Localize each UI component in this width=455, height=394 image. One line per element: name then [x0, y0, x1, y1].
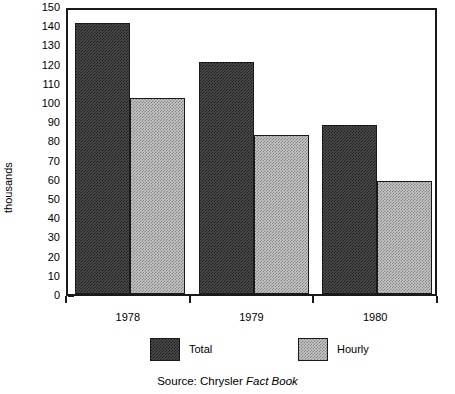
x-axis-tick-marks	[0, 296, 455, 305]
bar-chart-figure: thousands 150140130120110100908070605040…	[0, 0, 455, 394]
bar-hourly-1980	[377, 181, 432, 294]
chart-legend: TotalHourly	[0, 336, 455, 366]
x-axis-tick-label: 1979	[222, 311, 282, 323]
x-axis-tick-labels: 197819791980	[0, 311, 455, 325]
bar-total-1978	[75, 23, 130, 294]
y-axis-tick-label: 110	[26, 79, 60, 90]
source-italic-title: Fact Book	[246, 375, 298, 387]
bars-layer	[68, 10, 435, 294]
x-axis-tick-mark	[65, 296, 67, 303]
y-axis-tick-label: 40	[26, 213, 60, 224]
source-prefix: Source: Chrysler	[157, 375, 246, 387]
plot-area	[66, 8, 437, 296]
legend-label: Total	[189, 343, 212, 355]
legend-entry-hourly[interactable]: Hourly	[298, 336, 369, 362]
x-axis-tick-mark	[312, 296, 314, 303]
x-axis-tick-mark	[436, 296, 438, 303]
bar-total-1980	[322, 125, 377, 294]
y-axis-tick-label: 50	[26, 194, 60, 205]
bar-hourly-1979	[254, 135, 309, 294]
y-axis-tick-label: 90	[26, 117, 60, 128]
y-axis-tick-labels: 1501401301201101009080706050403020100	[22, 0, 60, 304]
x-axis-tick-label: 1980	[345, 311, 405, 323]
y-axis-tick-label: 150	[26, 2, 60, 13]
y-axis-tick-label: 80	[26, 136, 60, 147]
y-axis-tick-label: 20	[26, 252, 60, 263]
y-axis-tick-label: 30	[26, 232, 60, 243]
y-axis-tick-label: 10	[26, 271, 60, 282]
x-axis-tick-mark	[189, 296, 191, 303]
y-axis-title: thousands	[0, 128, 16, 248]
legend-label: Hourly	[337, 343, 369, 355]
y-axis-tick-label: 60	[26, 175, 60, 186]
x-axis-tick-label: 1978	[98, 311, 158, 323]
source-note: Source: Chrysler Fact Book	[0, 374, 455, 388]
y-axis-tick-label: 100	[26, 98, 60, 109]
y-axis-tick-label: 70	[26, 156, 60, 167]
legend-entry-total[interactable]: Total	[150, 336, 212, 362]
y-axis-tick-label: 130	[26, 40, 60, 51]
y-axis-tick-label: 140	[26, 21, 60, 32]
y-axis-tick-label: 120	[26, 60, 60, 71]
bar-total-1979	[199, 62, 254, 294]
legend-swatch-total	[150, 338, 180, 361]
bar-hourly-1978	[130, 98, 185, 294]
legend-swatch-hourly	[298, 338, 328, 361]
